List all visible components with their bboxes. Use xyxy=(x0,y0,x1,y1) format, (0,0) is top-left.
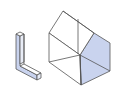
l-bar-side-face xyxy=(20,34,24,64)
house-prism xyxy=(49,11,110,85)
diagram-canvas xyxy=(0,0,120,96)
l-shaped-bar xyxy=(16,32,41,80)
